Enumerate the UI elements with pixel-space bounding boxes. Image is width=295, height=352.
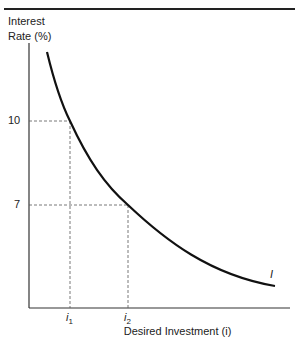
investment-curve	[47, 52, 275, 286]
investment-demand-chart	[0, 0, 295, 352]
x-axis-label: Desired Investment (i)	[0, 325, 295, 337]
y-tick-7: 7	[14, 198, 20, 210]
x-tick-i2: i2	[124, 311, 131, 326]
y-tick-10: 10	[8, 114, 20, 126]
x-tick-i1: i1	[66, 311, 73, 326]
curve-label: I	[270, 268, 273, 280]
